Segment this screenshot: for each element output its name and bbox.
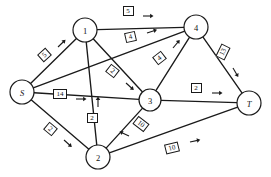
edge-1-4 — [97, 27, 184, 29]
edge-S-1 — [31, 38, 77, 83]
edge-1-3 — [93, 39, 142, 92]
edge-3-4 — [156, 37, 190, 91]
edge-3-T — [161, 100, 237, 102]
edge-S-2 — [31, 100, 89, 149]
capacity-label-1-4: 5 — [123, 6, 134, 16]
node-label-3: 3 — [148, 96, 152, 106]
graph-canvas: S1432T — [0, 0, 271, 177]
edge-3-2 — [106, 108, 142, 148]
capacity-label-S-3: 14 — [53, 89, 67, 99]
capacity-label-3-T: 2 — [191, 83, 202, 93]
flow-arrowhead-3-T — [219, 91, 222, 96]
flow-arrowhead-2-T — [196, 138, 200, 142]
capacity-label-2-1: 2 — [87, 113, 98, 123]
node-label-2: 2 — [96, 153, 100, 163]
node-label-1: 1 — [83, 26, 87, 36]
flow-arrowhead-1-4 — [150, 14, 153, 19]
edge-2-1 — [86, 42, 97, 145]
network-flow-diagram: S1432T 5414252241021310 — [0, 0, 271, 177]
flow-arrowhead-S-3 — [83, 97, 86, 102]
edge-S-3 — [34, 93, 139, 100]
